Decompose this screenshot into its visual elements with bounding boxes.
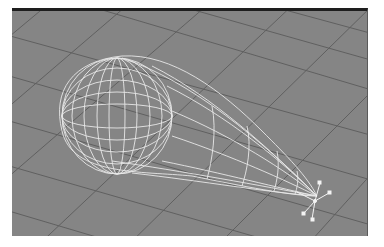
teardrop-wireframe <box>60 56 318 196</box>
viewport-canvas[interactable] <box>12 11 368 236</box>
3d-viewport[interactable] <box>12 8 368 236</box>
manipulator-handle-icon[interactable] <box>297 181 331 221</box>
